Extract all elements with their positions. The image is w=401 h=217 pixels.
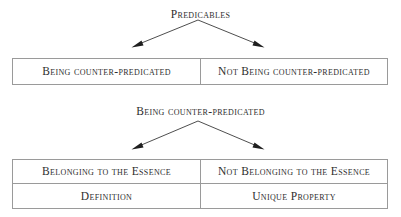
bottom-table: Belonging to the Essence Not Belonging t…	[12, 159, 388, 209]
table-cell-not-belonging-to-the-essence: Not Belonging to the Essence	[200, 160, 387, 183]
arrow-line-top-right	[198, 20, 257, 44]
arrow-head-bottom-right	[253, 143, 265, 150]
table-row: Definition Unique Property	[13, 184, 387, 209]
table-row: Belonging to the Essence Not Belonging t…	[13, 160, 387, 184]
cell-label: Being counter-predicated	[42, 66, 171, 78]
mid-heading: Being counter-predicated	[0, 101, 401, 119]
table-row: Being counter-predicated Not Being count…	[13, 59, 387, 84]
root-heading: Predicables	[0, 4, 401, 22]
table-cell-not-being-counter-predicated: Not Being counter-predicated	[200, 59, 387, 84]
branch-arrows-bottom	[0, 118, 401, 160]
top-table: Being counter-predicated Not Being count…	[12, 58, 388, 85]
cell-label: Belonging to the Essence	[42, 166, 171, 178]
predicables-diagram: Predicables Being counter-predicated Not…	[0, 0, 401, 217]
root-heading-label: Predicables	[171, 8, 231, 20]
table-cell-belonging-to-the-essence: Belonging to the Essence	[13, 160, 200, 183]
arrow-head-top-left	[132, 41, 144, 48]
arrow-head-bottom-left	[132, 143, 144, 150]
table-cell-being-counter-predicated: Being counter-predicated	[13, 59, 200, 84]
cell-label: Definition	[81, 191, 132, 203]
mid-heading-label: Being counter-predicated	[136, 105, 265, 117]
branch-arrows-top	[0, 18, 401, 58]
arrow-line-bottom-left	[139, 121, 198, 146]
table-cell-unique-property: Unique Property	[200, 184, 387, 209]
arrow-head-top-right	[253, 41, 265, 48]
cell-label: Unique Property	[252, 191, 336, 203]
cell-label: Not Belonging to the Essence	[218, 166, 370, 178]
table-cell-definition: Definition	[13, 184, 200, 209]
arrow-line-top-left	[139, 20, 198, 44]
cell-label: Not Being counter-predicated	[218, 66, 370, 78]
arrow-line-bottom-right	[198, 121, 257, 146]
